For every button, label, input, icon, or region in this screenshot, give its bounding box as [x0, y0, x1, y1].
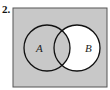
venn-diagram: A B — [0, 0, 110, 90]
set-a-label: A — [35, 42, 43, 54]
set-b-label: B — [85, 42, 92, 54]
